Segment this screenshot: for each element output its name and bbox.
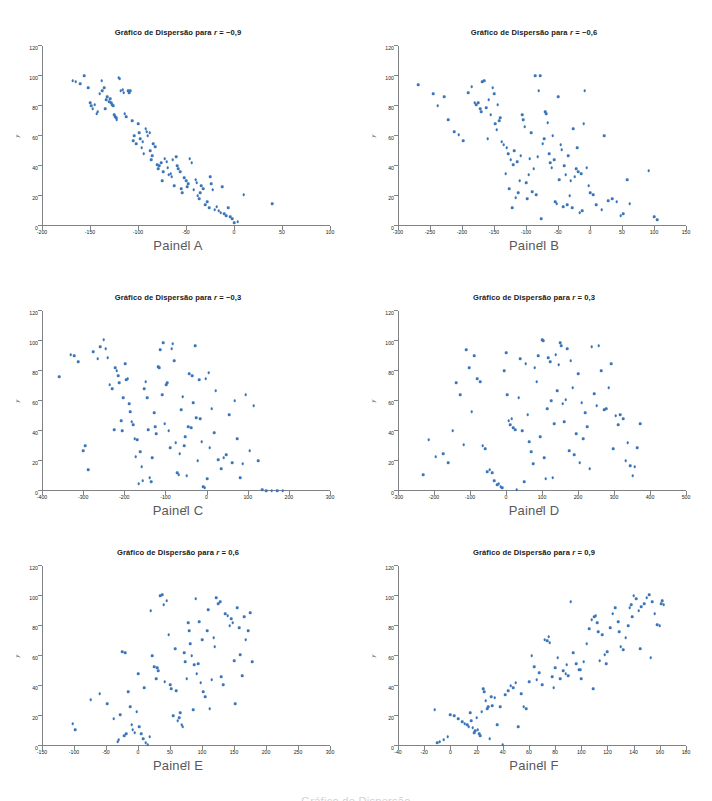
x-axis-tick-label: 0 [233,230,236,235]
scatter-point [236,437,239,440]
scatter-point [207,608,210,611]
scatter-point [593,392,596,395]
scatter-point [439,740,442,743]
scatter-points [398,566,686,746]
scatter-point [180,187,183,190]
plot-area-c: 020406080100120-400-300-200-100010020030… [42,311,330,491]
scatter-point [632,595,635,598]
scatter-point [562,205,565,208]
scatter-point [201,638,204,641]
scatter-point [556,656,559,659]
scatter-point [220,467,223,470]
scatter-point [490,695,493,698]
x-axis-tick-label: -100 [465,495,475,500]
scatter-point [648,169,651,172]
scatter-point [208,707,211,710]
x-axis-tick-label: -200 [37,230,47,235]
scatter-point [109,97,112,100]
x-axis-tick-label: 100 [577,750,586,755]
scatter-point [215,596,218,599]
scatter-point [571,386,574,389]
x-axis-tick-label: 50 [279,230,285,235]
scatter-point [609,626,612,629]
scatter-point [192,189,195,192]
scatter-point [147,428,150,431]
scatter-point [151,154,154,157]
scatter-point [174,647,177,650]
scatter-point [592,193,595,196]
scatter-points [42,46,330,226]
scatter-point [528,680,531,683]
scatter-point [202,187,205,190]
scatter-point [179,712,182,715]
scatter-point [556,389,559,392]
scatter-point [142,479,145,482]
x-axis-tick-label: -150 [489,230,499,235]
scatter-point [215,205,218,208]
scatter-point [241,674,244,677]
scatter-point [470,719,473,722]
scatter-point [233,222,236,225]
scatter-point [543,457,546,460]
scatter-point [592,688,595,691]
scatter-point [558,178,561,181]
scatter-point [649,656,652,659]
scatter-point [154,425,157,428]
scatter-point [566,204,569,207]
scatter-point [153,412,156,415]
scatter-point [539,75,542,78]
scatter-point [175,156,178,159]
scatter-point [138,132,141,135]
scatter-point [580,172,583,175]
scatter-point [162,341,165,344]
scatter-point [521,114,524,117]
scatter-point [231,461,234,464]
scatter-point [167,634,170,637]
scatter-point [622,213,625,216]
scatter-point [584,412,587,415]
scatter-point [184,661,187,664]
scatter-point [549,162,552,165]
scatter-point [170,688,173,691]
scatter-point [516,160,519,163]
scatter-point [550,166,553,169]
scatter-point [520,692,523,695]
scatter-point [230,617,233,620]
scatter-point [497,103,500,106]
panel-title-f: Gráfico de Dispersão para r = 0,9 [356,548,712,557]
scatter-point [130,724,133,727]
scatter-point [509,424,512,427]
scatter-point [155,677,158,680]
scatter-point [187,622,190,625]
scatter-point [552,135,555,138]
x-axis-tick-label: 0 [505,495,508,500]
title-prefix: Gráfico de Dispersão para [115,293,214,302]
scatter-point [82,449,85,452]
title-prefix: Gráfico de Dispersão para [115,28,214,37]
scatter-point [136,439,139,442]
scatter-point [470,85,473,88]
scatter-point [475,716,478,719]
scatter-point [141,147,144,150]
scatter-point [555,202,558,205]
scatter-point [543,138,546,141]
scatter-point [607,199,610,202]
scatter-point [636,446,639,449]
scatter-point [436,105,439,108]
x-axis-tick-label: 100 [198,750,207,755]
scatter-point [178,716,181,719]
x-axis-tick-label: 50 [167,750,173,755]
scatter-point [546,407,549,410]
scatter-point [546,121,549,124]
scatter-point [153,665,156,668]
scatter-point [517,397,520,400]
scatter-point [203,487,206,490]
scatter-points [398,311,686,491]
x-axis-tick-label: 100 [650,230,659,235]
scatter-point [502,144,505,147]
x-axis-tick-label: 100 [326,230,335,235]
scatter-point [582,123,585,126]
x-axis-tick-label: 0 [449,750,452,755]
scatter-point [467,91,470,94]
scatter-point [225,454,228,457]
